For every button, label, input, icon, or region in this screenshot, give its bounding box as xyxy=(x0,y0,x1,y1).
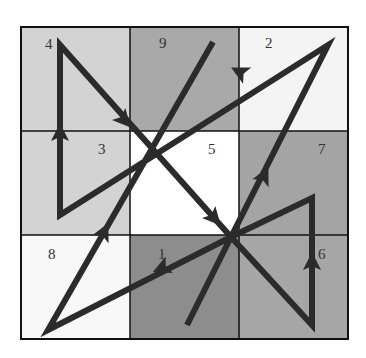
grid-cell-9 xyxy=(130,27,239,131)
magic-square-diagram: 492357816 xyxy=(0,0,366,358)
cell-number: 8 xyxy=(48,246,56,262)
cell-number: 9 xyxy=(159,35,167,51)
cell-number: 3 xyxy=(98,141,106,157)
cell-number: 2 xyxy=(265,35,273,51)
cell-number: 7 xyxy=(318,141,326,157)
grid-cell-6 xyxy=(239,235,348,339)
cell-number: 4 xyxy=(45,36,53,52)
cell-number: 6 xyxy=(318,246,326,262)
cell-number: 5 xyxy=(208,141,216,157)
grid-cell-4 xyxy=(21,27,130,131)
